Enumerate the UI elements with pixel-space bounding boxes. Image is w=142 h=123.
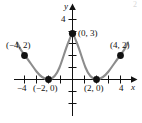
x-axis — [14, 76, 138, 83]
y-axis — [69, 4, 76, 117]
data-point — [45, 76, 52, 83]
point-label-0-3: (0, 3) — [78, 29, 98, 38]
graph-canvas — [0, 0, 142, 123]
y-axis-arrow — [69, 4, 76, 11]
y-tick-label-4: 4 — [61, 15, 66, 24]
x-axis-label: x — [131, 83, 135, 92]
point-label-neg2-0: (−2, 0) — [33, 84, 58, 93]
data-point — [117, 52, 124, 59]
data-point — [69, 30, 76, 37]
point-label-4-2: (4, 2) — [110, 41, 130, 50]
point-label-2-0: (2, 0) — [84, 84, 104, 93]
data-point — [21, 52, 28, 59]
y-axis-label: y — [64, 2, 68, 11]
data-point — [93, 76, 100, 83]
corner-page-mark: 2 — [133, 1, 137, 9]
x-tick-label-minus4: −4 — [17, 84, 27, 93]
x-tick-label-4: 4 — [119, 84, 124, 93]
coordinate-graph-figure: y x 4 −4 4 (−4, 2) (0, 3) (4, 2) (−2, 0)… — [0, 0, 142, 123]
point-label-neg4-2: (−4, 2) — [6, 41, 31, 50]
